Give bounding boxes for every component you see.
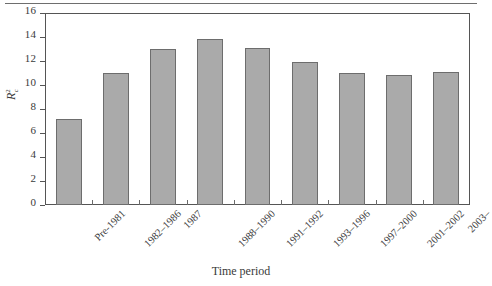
bar [103,73,129,205]
y-axis-title: R2c [4,89,20,100]
x-axis-tick-mark [376,200,377,205]
bar [56,119,82,205]
y-axis-tick-label: 2 [30,173,36,184]
bar [292,62,318,205]
x-axis-tick-label: 1987 [181,208,204,231]
x-axis-tick-label: 2001–2002 [425,208,466,249]
y-axis-tick-label: 0 [30,197,36,208]
x-axis-tick-label: Pre-1981 [92,208,127,243]
y-axis-tick-label: 14 [25,29,36,40]
x-axis-tick-label: 2003– [466,208,492,234]
x-axis-tick-mark [423,200,424,205]
x-axis-labels: Pre-19811982–198619871988–19901991–19921… [45,208,470,263]
bar [433,72,459,205]
bar [245,48,271,205]
x-axis-title: Time period [0,264,482,279]
x-axis-tick-label: 1988–1990 [236,208,277,249]
y-axis-tick-label: 16 [25,5,36,16]
x-axis-tick-label: 1997–2000 [378,208,419,249]
y-axis-tick-label: 10 [25,77,36,88]
x-axis-tick-mark [139,200,140,205]
y-axis-title-subscript: c [12,89,20,92]
y-axis-title-base: R [4,93,18,100]
y-axis-tick-label: 6 [30,125,36,136]
x-axis-tick-mark [92,200,93,205]
y-axis-title-superscript: 2 [4,89,12,93]
x-axis-tick-label: 1993–1996 [331,208,372,249]
x-axis-tick-mark [281,200,282,205]
bars-container [45,13,470,205]
top-divider-rule [5,3,477,4]
x-axis-tick-mark [187,200,188,205]
y-axis: 0246810121416 [0,13,45,205]
bar [197,39,223,205]
x-axis-tick-label: 1991–1992 [283,208,324,249]
bar [150,49,176,205]
bar [339,73,365,205]
y-axis-tick-label: 4 [30,149,36,160]
x-axis-tick-mark [234,200,235,205]
x-axis-tick-label: 1982–1986 [142,208,183,249]
y-axis-tick-label: 8 [30,101,36,112]
bar [386,75,412,205]
x-axis-tick-mark [328,200,329,205]
y-axis-tick-label: 12 [25,53,36,64]
